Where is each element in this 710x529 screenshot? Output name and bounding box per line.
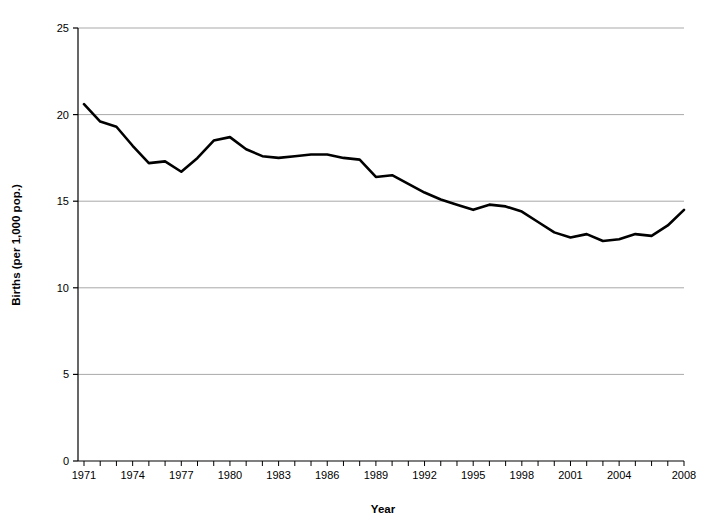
y-tick-label-15: 15	[57, 195, 69, 207]
x-tick-label-1971: 1971	[72, 469, 96, 481]
y-tick-label-25: 25	[57, 22, 69, 34]
x-tick-label-1998: 1998	[510, 469, 534, 481]
x-tick-label-1977: 1977	[169, 469, 193, 481]
x-tick-label-1992: 1992	[412, 469, 436, 481]
x-tick-label-1983: 1983	[266, 469, 290, 481]
x-tick-label-2008: 2008	[672, 469, 696, 481]
x-axis-title: Year	[371, 503, 396, 515]
x-tick-label-2001: 2001	[558, 469, 582, 481]
y-tick-label-0: 0	[63, 455, 69, 467]
x-tick-label-2004: 2004	[607, 469, 631, 481]
line-chart: 0510152025 19711974197719801983198619891…	[0, 0, 710, 529]
y-tick-label-20: 20	[57, 109, 69, 121]
x-tick-label-1989: 1989	[364, 469, 388, 481]
y-axis-title: Births (per 1,000 pop.)	[10, 184, 22, 306]
x-tick-label-1995: 1995	[461, 469, 485, 481]
chart-figure: 0510152025 19711974197719801983198619891…	[0, 0, 710, 529]
x-tick-label-1986: 1986	[315, 469, 339, 481]
x-tick-label-1980: 1980	[218, 469, 242, 481]
x-tick-label-1974: 1974	[120, 469, 144, 481]
y-tick-label-10: 10	[57, 282, 69, 294]
chart-background	[0, 0, 710, 529]
y-tick-label-5: 5	[63, 368, 69, 380]
